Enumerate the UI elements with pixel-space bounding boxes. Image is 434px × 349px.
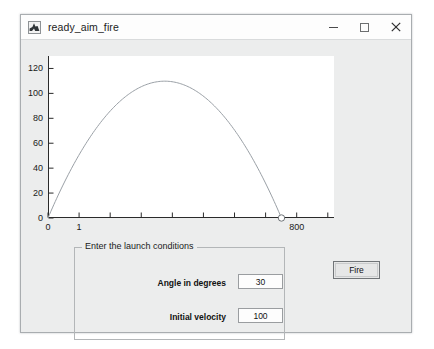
- x-tick-label: 0: [45, 222, 50, 232]
- window-title: ready_aim_fire: [48, 21, 318, 33]
- trajectory-plot: 020406080100120 01800: [48, 56, 334, 231]
- minimize-icon[interactable]: [318, 15, 349, 39]
- landing-point-marker: [278, 215, 284, 221]
- matlab-app-icon: [28, 21, 41, 34]
- plot-axis-lines: [48, 56, 334, 218]
- trajectory-series: [48, 81, 285, 221]
- y-axis-ticks: [49, 68, 54, 218]
- window-client-area: 020406080100120 01800 Enter the launch c…: [22, 40, 410, 331]
- x-axis-ticks: [48, 213, 328, 218]
- panel-title: Enter the launch conditions: [82, 241, 197, 251]
- x-tick-label: 1: [77, 222, 82, 232]
- maximize-icon[interactable]: [349, 15, 380, 39]
- x-tick-label: 800: [289, 222, 304, 232]
- y-tick-label: 100: [28, 88, 43, 98]
- velocity-input[interactable]: 100: [238, 308, 283, 323]
- window-controls: [318, 15, 411, 39]
- y-tick-label: 120: [28, 63, 43, 73]
- angle-field-label: Angle in degrees: [101, 278, 226, 288]
- screenshot-root: ready_aim_fire: [0, 0, 434, 349]
- angle-input[interactable]: 30: [238, 274, 283, 289]
- velocity-field-label: Initial velocity: [101, 312, 226, 322]
- y-tick-label: 40: [33, 163, 43, 173]
- title-bar[interactable]: ready_aim_fire: [21, 15, 411, 40]
- plot-axes-area: 020406080100120 01800: [48, 56, 334, 218]
- y-tick-label: 0: [38, 213, 43, 223]
- plot-canvas: [48, 56, 334, 231]
- application-window: ready_aim_fire: [20, 14, 412, 333]
- launch-conditions-panel: Enter the launch conditions Angle in deg…: [74, 247, 285, 340]
- y-tick-label: 20: [33, 188, 43, 198]
- y-tick-label: 60: [33, 138, 43, 148]
- close-icon[interactable]: [380, 15, 411, 39]
- fire-button[interactable]: Fire: [333, 261, 380, 279]
- fire-button-label: Fire: [335, 263, 378, 277]
- y-tick-label: 80: [33, 113, 43, 123]
